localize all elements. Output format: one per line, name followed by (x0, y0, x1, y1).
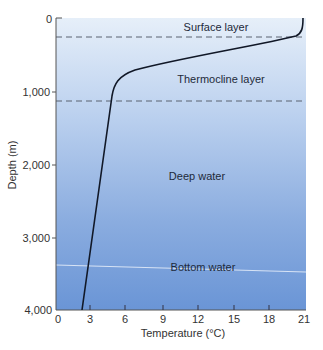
x-tick-label: 21 (298, 313, 310, 325)
y-tick-label: 4,000 (24, 304, 52, 316)
x-tick-label: 0 (55, 313, 61, 325)
y-tick-label: 1,000 (22, 86, 50, 98)
y-tick-label: 3,000 (22, 232, 50, 244)
x-tick-label: 15 (228, 313, 240, 325)
y-tick-label: 2,000 (22, 159, 50, 171)
x-tick-label: 18 (263, 313, 275, 325)
x-tick-label: 9 (160, 313, 166, 325)
deep-water-label: Deep water (169, 170, 226, 182)
surface-layer-label: Surface layer (184, 21, 249, 33)
temperature-depth-chart: Surface layer Thermocline layer Deep wat… (0, 0, 323, 350)
thermocline-layer-label: Thermocline layer (177, 73, 265, 85)
x-tick-label: 12 (192, 313, 204, 325)
y-tick-label: 0 (46, 13, 52, 25)
y-axis-title: Depth (m) (6, 141, 18, 190)
bottom-water-label: Bottom water (171, 261, 236, 273)
x-tick-label: 3 (87, 313, 93, 325)
x-tick-label: 6 (122, 313, 128, 325)
x-axis-title: Temperature (°C) (141, 327, 225, 339)
